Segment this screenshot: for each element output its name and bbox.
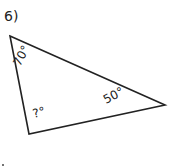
angle-label-bottom: ?° xyxy=(31,104,47,121)
angle-label-top-left: 70° xyxy=(10,43,32,68)
problem-number: 6) xyxy=(4,8,18,24)
triangle-diagram: 6) 70° 50° ?° xyxy=(0,0,170,167)
stray-dot xyxy=(2,164,4,166)
triangle-shape xyxy=(10,36,165,134)
angle-label-right: 50° xyxy=(101,84,126,106)
